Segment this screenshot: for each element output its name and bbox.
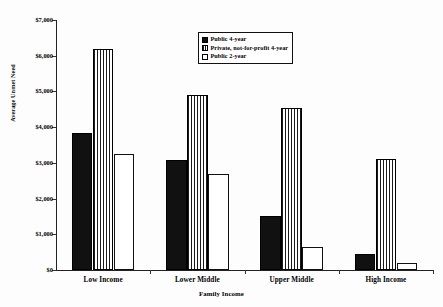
y-tick-label: $0	[47, 267, 53, 273]
bar	[72, 133, 93, 270]
x-tick-label: Upper Middle	[269, 276, 313, 284]
y-tick-label: $2,000	[35, 195, 53, 201]
x-tick-label: Low Income	[84, 276, 123, 284]
x-tick-mark	[150, 270, 151, 274]
bar	[166, 160, 187, 270]
chart-legend: Public 4-yearPrivate, not-for-profit 4-y…	[198, 32, 293, 64]
legend-swatch-icon	[202, 45, 208, 51]
legend-item-label: Public 2-year	[211, 53, 247, 59]
y-axis-title: Average Unmet Need	[9, 48, 16, 138]
x-tick-mark	[433, 270, 434, 274]
legend-swatch-icon	[202, 54, 208, 60]
bar	[302, 247, 323, 270]
legend-item: Public 4-year	[202, 36, 288, 44]
y-tick-label: $6,000	[35, 53, 53, 59]
bar	[376, 159, 397, 270]
bar	[208, 174, 229, 270]
y-tick-label: $4,000	[35, 124, 53, 130]
legend-item: Public 2-year	[202, 53, 288, 61]
legend-item-label: Private, not-for-profit 4-year	[211, 45, 289, 51]
y-tick-label: $1,000	[35, 231, 53, 237]
bar	[355, 254, 376, 270]
bar	[114, 154, 135, 270]
bar	[260, 216, 281, 270]
legend-swatch-icon	[202, 37, 208, 43]
y-tick-label: $5,000	[35, 88, 53, 94]
x-tick-mark	[245, 270, 246, 274]
y-tick-label: $7,000	[35, 17, 53, 23]
legend-item: Private, not-for-profit 4-year	[202, 44, 288, 52]
x-tick-label: High Income	[365, 276, 406, 284]
y-axis-line	[56, 20, 57, 270]
bar	[397, 263, 418, 270]
bar	[187, 95, 208, 270]
legend-item-label: Public 4-year	[211, 36, 247, 42]
x-tick-mark	[339, 270, 340, 274]
x-axis-title: Family Income	[0, 290, 443, 297]
bar	[93, 49, 114, 270]
x-tick-label: Lower Middle	[175, 276, 220, 284]
y-tick-label: $3,000	[35, 160, 53, 166]
bar-chart: Average Unmet Need $0$1,000$2,000$3,000$…	[0, 0, 443, 307]
bar	[281, 108, 302, 271]
